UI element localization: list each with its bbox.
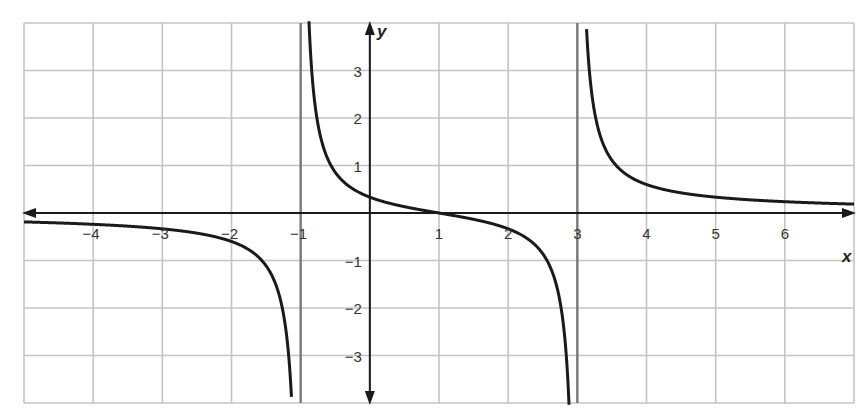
x-tick-label: −1 bbox=[290, 225, 307, 242]
x-tick-label: −3 bbox=[152, 225, 169, 242]
y-axis-label: y bbox=[376, 22, 388, 41]
y-tick-label: 3 bbox=[353, 63, 361, 80]
y-tick-label: 1 bbox=[353, 158, 361, 175]
curve-branch bbox=[587, 29, 854, 204]
x-axis-label: x bbox=[841, 247, 853, 266]
x-tick-label: −2 bbox=[221, 225, 238, 242]
y-tick-label: −1 bbox=[345, 253, 362, 270]
x-tick-label: 1 bbox=[435, 225, 443, 242]
y-tick-label: −3 bbox=[345, 348, 362, 365]
x-tick-label: 2 bbox=[504, 225, 512, 242]
x-tick-label: 6 bbox=[781, 225, 789, 242]
x-tick-label: 3 bbox=[573, 225, 581, 242]
y-tick-label: 2 bbox=[353, 110, 361, 127]
x-tick-label: 4 bbox=[642, 225, 650, 242]
x-tick-label: 5 bbox=[711, 225, 719, 242]
x-tick-label: −4 bbox=[83, 225, 100, 242]
y-tick-label: −2 bbox=[345, 300, 362, 317]
curve-branch bbox=[24, 222, 291, 397]
function-graph: −4−3−2−1123456−3−2−1123 x y bbox=[0, 0, 868, 414]
